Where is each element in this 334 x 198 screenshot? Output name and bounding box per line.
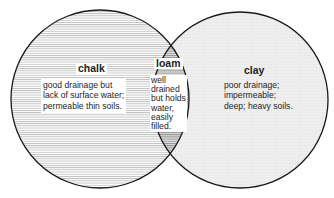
clay-description-line: poor drainage; bbox=[224, 80, 293, 90]
chalk-description-line: lack of surface water; bbox=[43, 90, 124, 100]
clay-description: poor drainage; impermeable; deep; heavy … bbox=[224, 80, 293, 111]
chalk-description-line: good drainage but bbox=[43, 80, 124, 90]
chalk-description: good drainage but lack of surface water;… bbox=[41, 79, 126, 113]
loam-title: loam bbox=[154, 58, 183, 69]
clay-description-line: deep; heavy soils. bbox=[224, 101, 293, 111]
clay-title: clay bbox=[242, 65, 266, 76]
loam-description: well drained but holds water, easily fil… bbox=[150, 75, 187, 132]
clay-description-line: impermeable; bbox=[224, 90, 293, 100]
chalk-title: chalk bbox=[76, 63, 107, 74]
chalk-description-line: permeable thin soils. bbox=[43, 101, 124, 111]
loam-description-line: filled. bbox=[151, 122, 186, 131]
